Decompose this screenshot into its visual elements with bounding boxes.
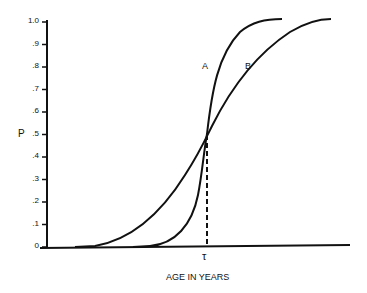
y-tick-label: .2 (9, 196, 39, 205)
y-tick-label: .7 (9, 84, 39, 93)
y-tick-label: 0 (9, 241, 39, 250)
y-tick-label: .4 (9, 151, 39, 160)
y-tick-label: .3 (9, 174, 39, 183)
y-tick-label: .1 (9, 219, 39, 228)
y-tick-label: .8 (9, 61, 39, 70)
y-tick-label: .6 (9, 106, 39, 115)
y-tick-label: 1.0 (9, 16, 39, 25)
curve-a-label: A (202, 61, 208, 71)
curve-b (75, 19, 331, 247)
y-axis-label: P (18, 128, 25, 139)
curve-b-label: B (245, 61, 251, 71)
chart-figure: 1.0 .9 .8 .7 .6 .5 .4 .3 .2 .1 0 P A B τ… (0, 0, 367, 293)
chart-plot (0, 0, 367, 293)
tau-marker: τ (202, 250, 206, 262)
x-axis-label: AGE IN YEARS (166, 272, 229, 282)
y-tick-label: .9 (9, 39, 39, 48)
